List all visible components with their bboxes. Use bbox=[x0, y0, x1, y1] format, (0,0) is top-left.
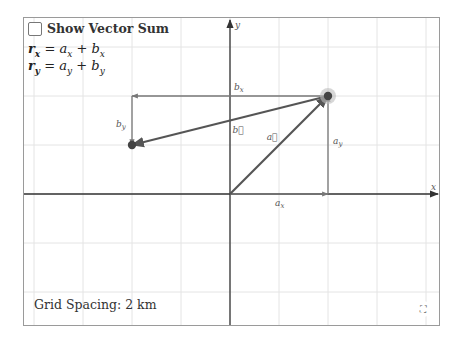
ay-label: ay bbox=[333, 136, 343, 148]
graph-labels: yxaxaybxbya⃗b⃗ bbox=[116, 20, 436, 210]
geometry-applet[interactable]: yxaxaybxbya⃗b⃗ Show Vector Sum rx = ax +… bbox=[23, 17, 440, 326]
fullscreen-button[interactable]: ⛶ bbox=[415, 301, 431, 317]
point-a[interactable] bbox=[324, 92, 332, 100]
bx-label: bx bbox=[234, 82, 244, 94]
point-b[interactable] bbox=[128, 141, 136, 149]
show-vector-sum-toggle[interactable]: Show Vector Sum bbox=[28, 21, 169, 36]
x-axis-label: x bbox=[431, 182, 436, 192]
by-label: by bbox=[116, 119, 127, 131]
vector-a-label: a⃗ bbox=[267, 132, 278, 142]
equation-ry: ry = ay + by bbox=[28, 58, 105, 76]
ax-label: ax bbox=[275, 198, 284, 210]
grid-spacing-label: Grid Spacing: 2 km bbox=[34, 297, 157, 312]
vector-b-label: b⃗ bbox=[232, 125, 243, 135]
fullscreen-icon: ⛶ bbox=[420, 304, 426, 315]
y-axis-label: y bbox=[234, 20, 241, 30]
equation-rx: rx = ax + bx bbox=[28, 41, 105, 59]
show-vector-sum-checkbox[interactable] bbox=[28, 22, 42, 36]
show-vector-sum-label: Show Vector Sum bbox=[47, 21, 169, 36]
